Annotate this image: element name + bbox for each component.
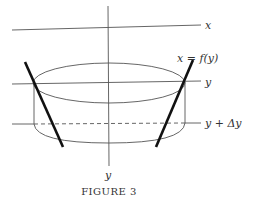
vertical-y-axis bbox=[108, 6, 109, 166]
figure-caption: FIGURE 3 bbox=[81, 186, 137, 197]
x-axis-label: x bbox=[205, 19, 212, 32]
y-level-label: y bbox=[204, 76, 212, 89]
curve-left-branch bbox=[25, 62, 63, 147]
y-axis-label: y bbox=[104, 169, 112, 182]
figure-diagram: x y y + Δy x = f(y) y FIGURE 3 bbox=[0, 0, 253, 200]
curve-label: x = f(y) bbox=[177, 52, 218, 65]
y-level-line bbox=[12, 81, 201, 84]
x-axis-line bbox=[12, 25, 201, 30]
y-delta-dashed-line bbox=[34, 123, 185, 124]
y-delta-label: y + Δy bbox=[204, 117, 242, 130]
